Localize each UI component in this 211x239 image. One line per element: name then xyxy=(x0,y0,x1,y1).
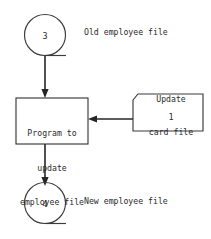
connector-card-to-process xyxy=(88,115,133,122)
arrow-head-down xyxy=(41,89,48,98)
tape-top-label: Old employee file xyxy=(84,27,168,38)
process-line-2: update xyxy=(16,163,88,175)
process-line-1: Program to xyxy=(16,128,88,140)
process-box-text: Program to update employee file xyxy=(16,105,88,232)
card-caption-line-2: card file xyxy=(140,127,202,138)
tape-bottom-label: New employee file xyxy=(84,196,168,207)
tape-bottom-value: 4 xyxy=(25,199,65,210)
arrow-head-left xyxy=(88,115,97,122)
flowchart-canvas: 3 Old employee file Program to update em… xyxy=(0,0,211,239)
connector-tape-top-to-process xyxy=(41,56,48,98)
tape-top-value: 3 xyxy=(25,31,65,42)
punched-card-value: 1 xyxy=(151,112,191,123)
card-caption-line-1: Update xyxy=(140,94,202,105)
